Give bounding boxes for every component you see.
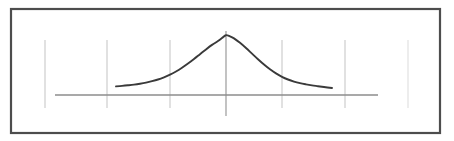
figure-container (0, 0, 454, 141)
figure-background (0, 0, 454, 141)
bell-curve-chart (0, 0, 454, 141)
